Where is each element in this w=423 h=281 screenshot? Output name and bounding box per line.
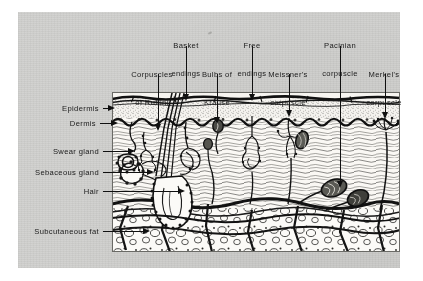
label-free-endings-line1: Free bbox=[222, 41, 282, 50]
label-merkels-corpuscle-line1: Merkel's bbox=[352, 70, 416, 79]
leader-hair bbox=[103, 191, 183, 192]
label-merkels-corpuscle-line2: corpuscle bbox=[352, 98, 416, 107]
leader-epidermis bbox=[103, 108, 113, 109]
label-swear-gland: Swear gland bbox=[14, 147, 99, 156]
label-basket-endings-line1: Basket bbox=[156, 41, 216, 50]
label-dermis: Dermis bbox=[20, 119, 96, 128]
label-corpuscles-of-ruffini-line2: of Ruffini bbox=[116, 98, 188, 107]
label-bulbs-of-krause-line1: Bulbs of bbox=[186, 70, 248, 79]
leader-dermis bbox=[100, 123, 116, 124]
label-hair: Hair bbox=[30, 187, 99, 196]
label-epidermis: Epidermis bbox=[20, 104, 99, 113]
skin-cross-section-figure: Basket endings Free endings Pacinian cor… bbox=[0, 0, 423, 281]
leader-swear-gland bbox=[103, 151, 133, 152]
leader-sebaceous-gland bbox=[103, 172, 152, 173]
label-bulbs-of-krause: Bulbs of Krause bbox=[186, 51, 248, 126]
label-meissners-corpuscle-line2: corpuscle bbox=[254, 98, 322, 107]
label-sebaceous-gland: Sebaceous gland bbox=[8, 168, 99, 177]
label-corpuscles-of-ruffini-line1: Corpuscles bbox=[116, 70, 188, 79]
leader-subcutaneous-fat bbox=[103, 231, 148, 232]
label-pacinian-corpuscle-line1: Pacinian bbox=[306, 41, 374, 50]
label-merkels-corpuscle: Merkel's corpuscle bbox=[352, 51, 416, 126]
label-meissners-corpuscle-line1: Meissner's bbox=[254, 70, 322, 79]
label-corpuscles-of-ruffini: Corpuscles of Ruffini bbox=[116, 51, 188, 126]
label-subcutaneous-fat: Subcutaneous fat bbox=[6, 227, 99, 236]
label-meissners-corpuscle: Meissner's corpuscle bbox=[254, 51, 322, 126]
label-bulbs-of-krause-line2: Krause bbox=[186, 98, 248, 107]
